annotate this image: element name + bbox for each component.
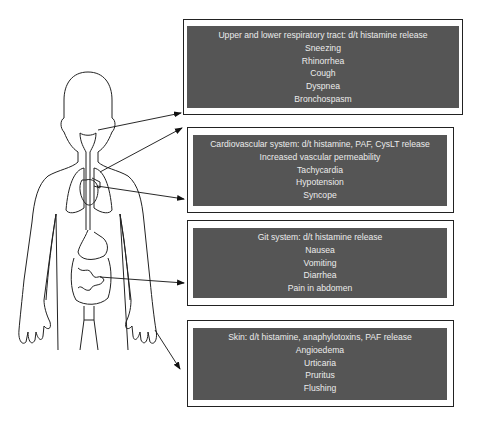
- arrow-respiratory: [98, 113, 181, 130]
- respiratory-title: Upper and lower respiratory tract: d/t h…: [187, 29, 459, 42]
- symptom-item: Increased vascular permeability: [193, 151, 447, 164]
- symptom-item: Hypotension: [193, 176, 447, 189]
- symptom-item: Tachycardia: [193, 164, 447, 177]
- symptom-item: Nausea: [193, 244, 447, 257]
- git-title: Git system: d/t histamine release: [193, 231, 447, 244]
- symptom-item: Flushing: [193, 382, 447, 395]
- symptom-item: Bronchospasm: [187, 93, 459, 106]
- cardiovascular-title: Cardiovascular system: d/t histamine, PA…: [193, 138, 447, 151]
- symptom-item: Cough: [187, 67, 459, 80]
- symptom-item: Pain in abdomen: [193, 282, 447, 295]
- skin-panel: Skin: d/t histamine, anaphylotoxins, PAF…: [193, 328, 447, 400]
- respiratory-panel: Upper and lower respiratory tract: d/t h…: [187, 26, 459, 108]
- symptom-item: Rhinorrhea: [187, 55, 459, 68]
- arrow-skin: [155, 330, 180, 369]
- symptom-item: Dyspnea: [187, 80, 459, 93]
- symptom-item: Syncope: [193, 189, 447, 202]
- arrow-git: [100, 277, 184, 283]
- skin-title: Skin: d/t histamine, anaphylotoxins, PAF…: [193, 331, 447, 344]
- git-panel: Git system: d/t histamine release Nausea…: [193, 228, 447, 298]
- symptom-item: Diarrhea: [193, 269, 447, 282]
- symptom-item: Pruritus: [193, 369, 447, 382]
- symptom-item: Angioedema: [193, 344, 447, 357]
- cardiovascular-panel: Cardiovascular system: d/t histamine, PA…: [193, 135, 447, 206]
- anaphylaxis-diagram: Upper and lower respiratory tract: d/t h…: [0, 0, 480, 426]
- symptom-item: Vomiting: [193, 257, 447, 270]
- symptom-item: Urticaria: [193, 357, 447, 370]
- arrow-cardiovascular: [100, 128, 182, 172]
- symptom-item: Sneezing: [187, 42, 459, 55]
